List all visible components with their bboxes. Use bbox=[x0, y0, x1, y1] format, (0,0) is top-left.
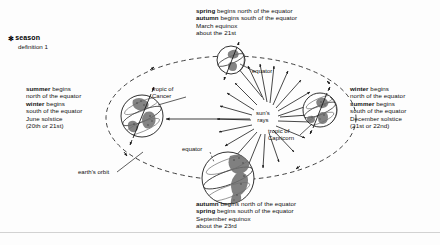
label-line: summer begins bbox=[350, 100, 406, 107]
tropic-of-cancer-label: tropic of Cancer bbox=[152, 86, 173, 100]
equator-lower-label: equator bbox=[182, 146, 202, 153]
equator-upper-label: equator bbox=[252, 68, 272, 75]
label-line: (20th or 21st) bbox=[26, 122, 82, 129]
label-line: south of the equator bbox=[26, 107, 82, 114]
september-equinox-label-block: autumn begins north of the equator sprin… bbox=[196, 200, 296, 230]
earth-globe-september-equinox bbox=[201, 152, 255, 207]
label-line: north of the equator bbox=[350, 92, 406, 99]
june-solstice-label-block: summer begins north of the equator winte… bbox=[26, 85, 82, 129]
label-line: about the 21st bbox=[196, 29, 297, 36]
label-line: June solstice bbox=[26, 115, 82, 122]
earths-orbit-label: earth's orbit bbox=[78, 169, 109, 176]
label-line: about the 23rd bbox=[196, 222, 296, 229]
label-line: September equinox bbox=[196, 215, 296, 222]
march-equinox-label-block: spring begins north of the equator autum… bbox=[196, 7, 297, 37]
footer-divider bbox=[0, 232, 440, 233]
label-line: winter begins bbox=[26, 100, 82, 107]
label-line: December solstice bbox=[350, 115, 406, 122]
earth-globe-december-solstice bbox=[303, 87, 338, 134]
label-line: winter begins bbox=[350, 85, 406, 92]
label-line: south of the equator bbox=[350, 107, 406, 114]
earth-globe-march-equinox bbox=[217, 42, 256, 80]
label-line: autumn begins north of the equator bbox=[196, 200, 296, 207]
label-line: summer begins bbox=[26, 85, 82, 92]
suns-rays-label: sun's rays bbox=[256, 110, 270, 124]
december-solstice-label-block: winter begins north of the equator summe… bbox=[350, 85, 406, 129]
label-line: spring begins south of the equator bbox=[196, 207, 296, 214]
tropic-of-capricorn-label: tropic of Capricorn bbox=[268, 128, 294, 142]
label-line: north of the equator bbox=[26, 92, 82, 99]
season-diagram-page: ✻season definition 1 bbox=[0, 0, 440, 245]
label-line: (21st or 22nd) bbox=[350, 122, 406, 129]
label-line: autumn begins south of the equator bbox=[196, 14, 297, 21]
label-line: spring begins north of the equator bbox=[196, 7, 297, 14]
label-line: March equinox bbox=[196, 22, 297, 29]
